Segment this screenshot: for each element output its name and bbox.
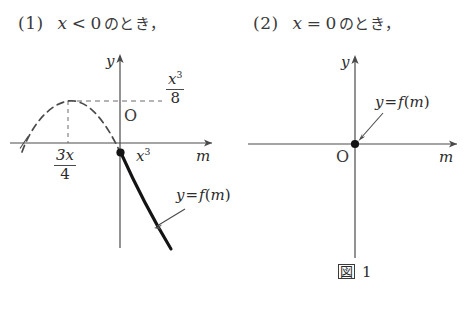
- case-1-peak-exponent: 3: [176, 69, 182, 80]
- case-1-dashed-curve: [22, 101, 120, 152]
- case-1-point-value-exponent: 3: [144, 146, 150, 157]
- case-1-m-axis: [10, 140, 212, 147]
- case-2-origin-label: O: [336, 147, 349, 166]
- case-1-peak-value-fraction: x3 8: [166, 72, 184, 107]
- figure-caption-number: 1: [355, 263, 372, 281]
- figure-root: (1)x<0のとき，: [0, 0, 470, 320]
- case-1-function-paren-close: ): [225, 186, 231, 204]
- case-1-peak-numerator: x3: [166, 72, 184, 90]
- case-2-function-paren-close: ): [424, 93, 430, 111]
- case-1-point-value-label: x3: [136, 147, 150, 165]
- case-2-m-axis-label: m: [439, 148, 453, 166]
- case-2-function-eq: =: [383, 93, 398, 111]
- case-1-function-label: y=f(m): [176, 186, 231, 204]
- case-1-function-arg: m: [210, 186, 224, 204]
- case-1-bold-curve: [121, 153, 171, 249]
- case-2-y-axis-label: y: [341, 53, 349, 71]
- case-1-vertex-x-fraction: 3x 4: [54, 148, 76, 183]
- case-1-callout-arrow: [154, 209, 185, 230]
- case-1-vertex-numerator: 3x: [54, 148, 76, 166]
- case-2-point-marker: [351, 140, 359, 148]
- panel-case-1: (1)x<0のとき，: [0, 0, 235, 320]
- figure-caption: 図1: [338, 263, 372, 281]
- figure-caption-glyph: 図: [338, 264, 355, 279]
- case-1-y-axis-label: y: [106, 52, 114, 70]
- case-1-m-axis-label: m: [196, 147, 210, 165]
- case-1-origin-label: O: [124, 106, 137, 125]
- case-1-function-eq: =: [184, 186, 199, 204]
- panel-case-2: (2)x=0のとき， m y O y=f(m): [235, 0, 470, 320]
- case-1-vertex-denominator: 4: [54, 166, 76, 183]
- case-1-peak-denominator: 8: [166, 90, 184, 107]
- case-2-callout-arrow: [359, 113, 384, 141]
- case-2-function-label: y=f(m): [375, 93, 430, 111]
- case-2-y-axis: [351, 55, 358, 258]
- case-1-point-marker: [116, 148, 124, 156]
- case-2-function-arg: m: [409, 93, 423, 111]
